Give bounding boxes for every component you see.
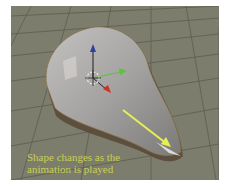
caption-line-1: Shape changes as the	[27, 151, 120, 163]
3d-viewport: Shape changes as the animation is played	[11, 6, 219, 180]
caption-line-2: animation is played	[27, 163, 113, 175]
